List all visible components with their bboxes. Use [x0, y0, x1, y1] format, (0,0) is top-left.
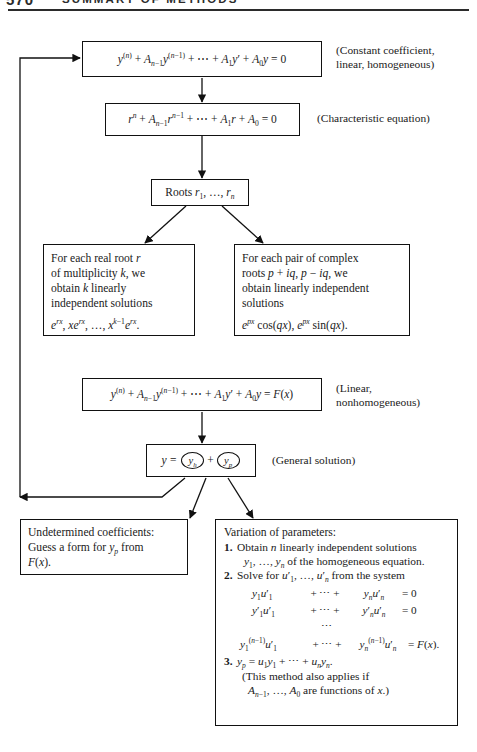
arrow-roots-to-complex	[222, 206, 263, 243]
variation-step-1: 1. Obtain n linearly independent solutio…	[224, 540, 449, 554]
complex-roots-line-1: For each pair of complex	[242, 251, 402, 266]
general-solution-yh: yh	[181, 452, 204, 469]
node-real-roots: For each real root r of multiplicity k, …	[43, 244, 195, 336]
variation-step-3-text: yp = u1y1 + ⋯ + unyn.	[237, 654, 449, 668]
arrow-general-to-variation	[228, 478, 253, 518]
system-row-1: y1u′1 + ⋯ + ynu′n = 0	[252, 585, 449, 601]
undetermined-line-1: Undetermined coefficients:	[28, 525, 180, 540]
general-solution-yp: yp	[217, 452, 240, 469]
node-roots: Roots r1, …, rn	[151, 179, 249, 206]
variation-step-2-number: 2.	[224, 568, 237, 582]
arrow-general-to-undetermined	[190, 478, 206, 518]
label-general-solution: (General solution)	[272, 453, 412, 467]
system-row-ellipsis: ⋯	[252, 618, 402, 634]
nonhomogeneous-equation-text: y(n) + An−1y(n−1) + ⋯ + A1y′ + A0y = F(x…	[111, 386, 293, 403]
homogeneous-equation-text: y(n) + An−1y(n−1) + ⋯ + A1y′ + A0y = 0	[118, 51, 286, 68]
complex-roots-line-3: obtain linearly independent	[242, 281, 402, 296]
variation-linear-system: y1u′1 + ⋯ + ynu′n = 0 y′1u′1 + ⋯ + y′nu′…	[224, 585, 449, 652]
undetermined-line-3: F(x).	[28, 555, 180, 570]
variation-step-3: 3. yp = u1y1 + ⋯ + unyn.	[224, 654, 449, 668]
label-linear-nonhomogeneous: (Linear, nonhomogeneous)	[336, 381, 471, 410]
system-row-last: y1(n−1)u′1 + ⋯ + yn(n−1)u′n = F(x).	[252, 636, 449, 652]
label-characteristic-equation: (Characteristic equation)	[317, 111, 477, 125]
node-homogeneous-equation: y(n) + An−1y(n−1) + ⋯ + A1y′ + A0y = 0	[82, 41, 322, 77]
variation-step-1-line-2: y1, …, yn of the homogeneous equation.	[224, 554, 449, 568]
real-roots-line-1: For each real root r	[51, 251, 187, 266]
variation-step-1-text: Obtain n linearly independent solutions	[237, 540, 449, 554]
node-variation-of-parameters: Variation of parameters: 1. Obtain n lin…	[215, 519, 458, 726]
node-undetermined-coefficients: Undetermined coefficients: Guess a form …	[20, 519, 188, 575]
characteristic-equation-text: rn + An−1rn−1 + ⋯ + A1r + A0 = 0	[128, 111, 277, 128]
variation-title: Variation of parameters:	[224, 526, 449, 539]
variation-step-3-number: 3.	[224, 654, 237, 668]
node-characteristic-equation: rn + An−1rn−1 + ⋯ + A1r + A0 = 0	[105, 103, 300, 136]
node-nonhomogeneous-equation: y(n) + An−1y(n−1) + ⋯ + A1y′ + A0y = F(x…	[82, 378, 322, 411]
arrow-roots-to-real	[145, 206, 186, 243]
complex-roots-line-4: solutions	[242, 296, 402, 311]
variation-step-2: 2. Solve for u′1, …, u′n from the system	[224, 568, 449, 582]
variation-step-2-text: Solve for u′1, …, u′n from the system	[237, 568, 449, 582]
complex-roots-line-5: epx cos(qx), epx sin(qx).	[242, 318, 402, 333]
general-solution-plus: +	[207, 452, 214, 469]
node-complex-roots: For each pair of complex roots p + iq, p…	[234, 244, 410, 336]
node-general-solution: y = yh + yp	[146, 444, 256, 477]
variation-step-3-line-3: An−1, …, A0 are functions of x.)	[224, 683, 449, 697]
complex-roots-line-2: roots p + iq, p − iq, we	[242, 266, 402, 281]
general-solution-text: y = yh + yp	[161, 452, 240, 469]
arrow-general-to-feedback	[20, 478, 185, 497]
real-roots-line-3: obtain k linearly	[51, 281, 187, 296]
general-solution-lhs: y =	[161, 452, 177, 469]
undetermined-line-2: Guess a form for yp from	[28, 540, 180, 555]
variation-step-1-number: 1.	[224, 540, 237, 554]
variation-step-3-line-2: (This method also applies if	[224, 669, 449, 683]
real-roots-line-2: of multiplicity k, we	[51, 266, 187, 281]
real-roots-line-4: independent solutions	[51, 296, 187, 311]
system-row-2: y′1u′1 + ⋯ + y′nu′n = 0	[252, 602, 449, 618]
roots-text: Roots r1, …, rn	[165, 184, 234, 201]
label-constant-coefficient: (Constant coefficient, linear, homogeneo…	[336, 43, 471, 72]
real-roots-line-5: erx, xerx, …, xk−1erx.	[51, 318, 187, 333]
